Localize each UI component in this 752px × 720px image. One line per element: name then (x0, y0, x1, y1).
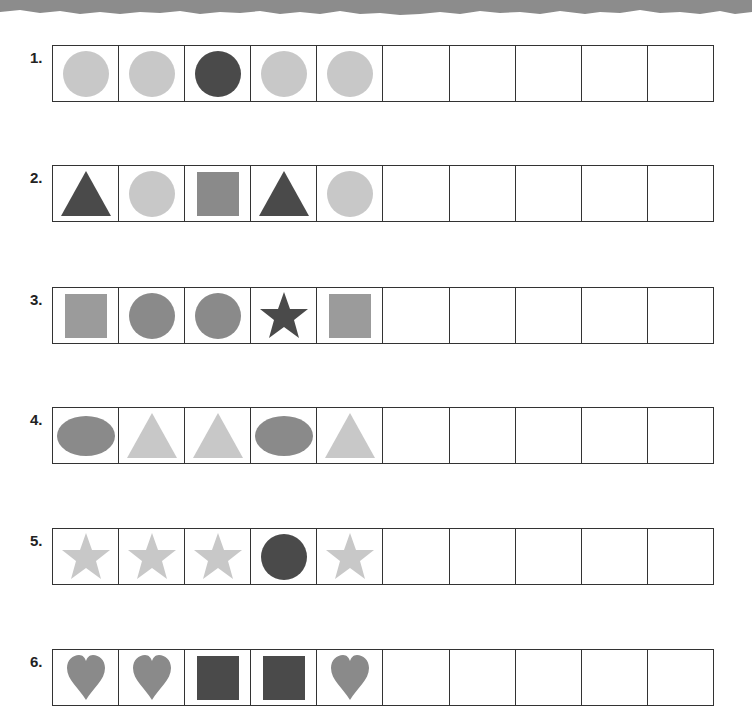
empty-answer-cell[interactable] (516, 46, 582, 101)
pattern-cell (185, 650, 251, 705)
empty-answer-cell[interactable] (450, 529, 516, 584)
pattern-cell (53, 408, 119, 463)
pattern-cell (53, 166, 119, 221)
empty-answer-cell[interactable] (582, 529, 648, 584)
circle-icon (189, 290, 247, 342)
row-number: 3. (30, 291, 43, 308)
circle-icon (321, 48, 379, 100)
empty-answer-cell[interactable] (516, 408, 582, 463)
pattern-cell (185, 166, 251, 221)
circle-icon (255, 48, 313, 100)
empty-answer-cell[interactable] (582, 288, 648, 343)
torn-paper-banner (0, 0, 752, 16)
empty-answer-cell[interactable] (582, 408, 648, 463)
pattern-grid (52, 287, 714, 344)
empty-answer-cell[interactable] (648, 46, 713, 101)
row-number: 5. (30, 532, 43, 549)
pattern-cell (317, 529, 383, 584)
triangle-icon (321, 410, 379, 462)
pattern-grid (52, 165, 714, 222)
empty-answer-cell[interactable] (450, 46, 516, 101)
pattern-cell (119, 46, 185, 101)
empty-answer-cell[interactable] (383, 529, 449, 584)
pattern-row-4: 4. (0, 407, 752, 465)
circle-icon (123, 48, 181, 100)
pattern-row-6: 6. (0, 649, 752, 707)
pattern-cell (53, 46, 119, 101)
oval-icon (255, 410, 313, 462)
star-icon (57, 531, 115, 583)
circle-icon (189, 48, 247, 100)
heart-icon (123, 652, 181, 704)
empty-answer-cell[interactable] (450, 650, 516, 705)
pattern-row-5: 5. (0, 528, 752, 586)
pattern-cell (119, 408, 185, 463)
empty-answer-cell[interactable] (648, 408, 713, 463)
empty-answer-cell[interactable] (450, 166, 516, 221)
heart-icon (321, 652, 379, 704)
star-icon (321, 531, 379, 583)
triangle-icon (255, 168, 313, 220)
empty-answer-cell[interactable] (383, 650, 449, 705)
square-icon (189, 168, 247, 220)
pattern-cell (251, 288, 317, 343)
empty-answer-cell[interactable] (383, 46, 449, 101)
empty-answer-cell[interactable] (383, 166, 449, 221)
pattern-cell (317, 288, 383, 343)
pattern-grid (52, 407, 714, 464)
star-icon (123, 531, 181, 583)
pattern-cell (251, 46, 317, 101)
empty-answer-cell[interactable] (582, 166, 648, 221)
pattern-cell (251, 650, 317, 705)
oval-icon (57, 410, 115, 462)
pattern-cell (251, 529, 317, 584)
star-icon (189, 531, 247, 583)
empty-answer-cell[interactable] (582, 650, 648, 705)
pattern-cell (119, 166, 185, 221)
circle-icon (57, 48, 115, 100)
empty-answer-cell[interactable] (648, 166, 713, 221)
pattern-cell (53, 650, 119, 705)
empty-answer-cell[interactable] (450, 288, 516, 343)
triangle-icon (57, 168, 115, 220)
empty-answer-cell[interactable] (383, 288, 449, 343)
pattern-cell (317, 46, 383, 101)
empty-answer-cell[interactable] (516, 288, 582, 343)
row-number: 4. (30, 411, 43, 428)
pattern-grid (52, 649, 714, 706)
pattern-row-3: 3. (0, 287, 752, 345)
empty-answer-cell[interactable] (582, 46, 648, 101)
empty-answer-cell[interactable] (516, 650, 582, 705)
empty-answer-cell[interactable] (516, 166, 582, 221)
empty-answer-cell[interactable] (516, 529, 582, 584)
pattern-cell (119, 650, 185, 705)
pattern-cell (119, 288, 185, 343)
empty-answer-cell[interactable] (648, 288, 713, 343)
pattern-cell (185, 408, 251, 463)
square-icon (321, 290, 379, 342)
pattern-cell (251, 166, 317, 221)
pattern-cell (185, 529, 251, 584)
empty-answer-cell[interactable] (648, 650, 713, 705)
pattern-cell (317, 408, 383, 463)
pattern-cell (119, 529, 185, 584)
square-icon (189, 652, 247, 704)
pattern-row-1: 1. (0, 45, 752, 103)
triangle-icon (123, 410, 181, 462)
pattern-cell (53, 529, 119, 584)
empty-answer-cell[interactable] (450, 408, 516, 463)
star-icon (255, 290, 313, 342)
square-icon (255, 652, 313, 704)
pattern-cell (317, 166, 383, 221)
circle-icon (123, 290, 181, 342)
row-number: 6. (30, 653, 43, 670)
empty-answer-cell[interactable] (648, 529, 713, 584)
circle-icon (255, 531, 313, 583)
pattern-cell (53, 288, 119, 343)
heart-icon (57, 652, 115, 704)
circle-icon (123, 168, 181, 220)
pattern-cell (251, 408, 317, 463)
pattern-cell (185, 288, 251, 343)
empty-answer-cell[interactable] (383, 408, 449, 463)
pattern-cell (317, 650, 383, 705)
